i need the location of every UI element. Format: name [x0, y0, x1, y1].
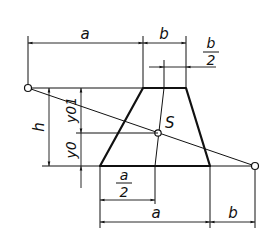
label-b-half-numerator: b — [207, 35, 216, 51]
label-h: h — [30, 122, 48, 132]
label-a-half-denominator: 2 — [120, 184, 129, 200]
label-y01: y01 — [63, 97, 79, 124]
trapezoid-shape — [100, 88, 210, 166]
right-construction-point — [252, 163, 259, 170]
label-centroid-s: S — [165, 114, 175, 132]
left-construction-point — [25, 85, 32, 92]
label-y0: y0 — [63, 141, 79, 159]
label-top-b: b — [159, 25, 169, 43]
diagram-canvas: a b b 2 S h y01 y0 a 2 a b — [0, 0, 270, 242]
label-bottom-b: b — [228, 204, 238, 222]
label-bottom-a: a — [151, 204, 160, 222]
label-b-half-denominator: 2 — [207, 52, 216, 68]
median-line — [155, 88, 164, 166]
label-a-half-numerator: a — [120, 167, 129, 183]
label-top-a: a — [80, 25, 89, 43]
